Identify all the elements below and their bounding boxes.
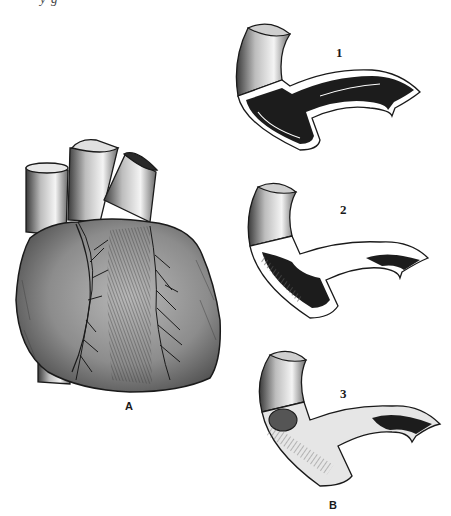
figure-canvas: y g	[0, 0, 451, 516]
artery-stage-3	[259, 351, 440, 486]
heart-drawing	[16, 140, 220, 392]
stage-2-number: 2	[340, 202, 347, 218]
panel-a-label: A	[125, 400, 133, 412]
panel-b-label: B	[329, 499, 337, 511]
stage-1-number: 1	[336, 45, 343, 61]
illustration	[0, 0, 451, 516]
stage-3-number: 3	[340, 386, 347, 402]
artery-stage-1	[236, 24, 420, 150]
artery-stage-2	[248, 183, 428, 318]
